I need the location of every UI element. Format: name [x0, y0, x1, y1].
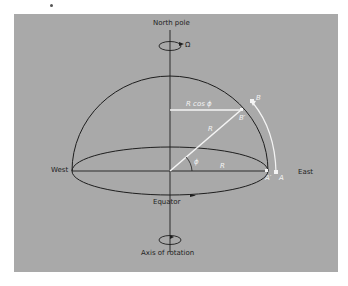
phi-angle-arc — [186, 157, 192, 171]
r-cos-phi-label: R cos ϕ — [186, 100, 212, 108]
rotation-arrow-top-icon — [159, 42, 184, 51]
phi-label: ϕ — [194, 158, 199, 166]
point-a-label: A — [279, 174, 284, 182]
point-a-prime-marker — [265, 169, 268, 172]
radius-to-b-prime — [170, 110, 241, 171]
equatorial-radius-label: R — [220, 162, 225, 170]
east-label: East — [298, 168, 313, 176]
point-b-prime-marker — [240, 108, 243, 111]
point-a-marker — [274, 170, 278, 174]
point-b-marker — [250, 99, 254, 103]
north-pole-label: North pole — [153, 19, 190, 27]
point-a-prime-label: A′ — [265, 174, 271, 182]
hemisphere-diagram — [0, 0, 348, 286]
axis-of-rotation-label: Axis of rotation — [141, 249, 194, 257]
equator-label: Equator — [153, 198, 181, 206]
west-label: West — [51, 166, 68, 174]
point-b-prime-label: B′ — [239, 114, 245, 122]
motion-arc-a-to-b — [253, 103, 276, 172]
omega-label: Ω — [185, 41, 190, 49]
point-b-label: B — [256, 94, 261, 102]
inclined-radius-label: R — [208, 125, 213, 133]
